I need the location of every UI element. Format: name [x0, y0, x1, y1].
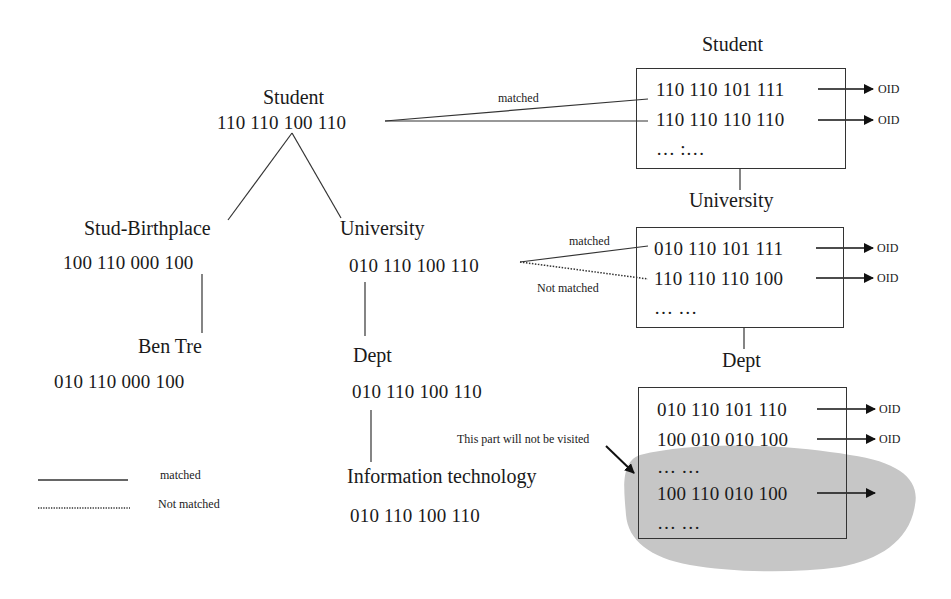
- dept-index-ellipsis-2: … …: [657, 513, 700, 532]
- university-index-row-1: 010 110 101 111: [654, 239, 783, 258]
- dept-oid-1: OID: [879, 403, 900, 415]
- dept-oid-2: OID: [879, 433, 900, 445]
- student-index-title: Student: [702, 34, 763, 54]
- tree-right-code: 010 110 100 110: [349, 256, 479, 275]
- tree-right-child-label: Dept: [353, 345, 392, 365]
- dept-index-hidden-row: 100 110 010 100: [657, 484, 788, 503]
- tree-left-child-label: Ben Tre: [138, 336, 202, 356]
- legend-not-matched-label: Not matched: [158, 498, 220, 510]
- university-index-ellipsis: … …: [654, 298, 697, 317]
- dept-index-row-2: 100 010 010 100: [657, 430, 788, 449]
- legend-matched-label: matched: [160, 469, 201, 481]
- tree-left-child-code: 010 110 000 100: [54, 372, 185, 391]
- tree-right-label: University: [340, 218, 424, 238]
- dept-index-ellipsis-1: … …: [657, 457, 700, 476]
- dept-index-title: Dept: [722, 350, 761, 370]
- univ-matched-label: matched: [569, 235, 610, 247]
- univ-not-matched-label: Not matched: [537, 282, 599, 294]
- university-index-row-2: 110 110 110 100: [654, 269, 783, 288]
- student-index-row-1: 110 110 101 111: [656, 80, 784, 99]
- not-visited-annotation: This part will not be visited: [457, 433, 589, 445]
- dept-index-row-1: 010 110 101 110: [657, 400, 787, 419]
- root-matched-label: matched: [498, 92, 539, 104]
- university-index-title: University: [689, 190, 773, 210]
- university-oid-1: OID: [877, 242, 898, 254]
- university-oid-2: OID: [877, 272, 898, 284]
- tree-right-grandchild-code: 010 110 100 110: [350, 506, 480, 525]
- student-index-ellipsis: … :…: [656, 139, 705, 158]
- student-oid-2: OID: [878, 114, 899, 126]
- tree-left-code: 100 110 000 100: [63, 253, 194, 272]
- tree-root-code: 110 110 100 110: [217, 113, 346, 132]
- tree-root-label: Student: [263, 87, 324, 107]
- student-index-row-2: 110 110 110 110: [656, 110, 784, 129]
- tree-left-label: Stud-Birthplace: [84, 218, 211, 238]
- tree-right-grandchild-label: Information technology: [347, 466, 536, 486]
- student-oid-1: OID: [878, 83, 899, 95]
- tree-right-child-code: 010 110 100 110: [352, 382, 482, 401]
